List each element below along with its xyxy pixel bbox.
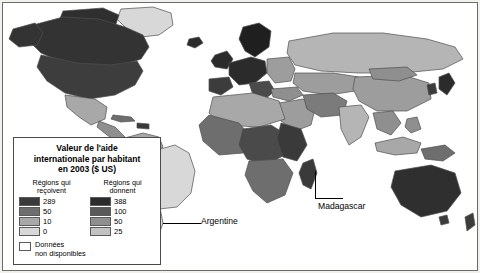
country-mexico (65, 95, 107, 125)
legend-swatch-row: 100 (90, 207, 155, 216)
legend-swatch-row: 388 (90, 197, 155, 206)
legend-swatch-row: 289 (19, 197, 84, 206)
legend-swatch (90, 197, 111, 206)
country-australia (391, 165, 461, 217)
legend-swatch-row: 50 (19, 207, 84, 216)
legend-swatch (19, 197, 40, 206)
country-cuba (111, 115, 135, 122)
legend-swatch-row: 50 (90, 217, 155, 226)
country-russia (287, 33, 463, 73)
legend-giving-header: Régions qui donnent (90, 179, 155, 196)
legend-swatch-label: 10 (43, 217, 51, 226)
legend-giving-header-line-2: donnent (90, 187, 155, 195)
legend-no-data-label: Données non disponibles (35, 241, 86, 258)
legend-swatch (19, 227, 40, 236)
legend-swatch-label: 50 (43, 207, 51, 216)
map-frame: Argentine Madagascar Valeur de l'aide in… (2, 2, 478, 271)
country-scandinavia (239, 23, 271, 57)
map-screenshot: Argentine Madagascar Valeur de l'aide in… (0, 0, 480, 273)
legend-swatch-label: 0 (43, 227, 47, 236)
legend-swatch (19, 217, 40, 226)
country-new-zealand (465, 213, 475, 231)
legend-title-line-2: internationale par habitant (19, 154, 155, 165)
country-central-asia (293, 73, 359, 95)
legend-swatch-label: 100 (114, 207, 127, 216)
country-southeast-asia (373, 111, 401, 135)
legend-swatch-label: 289 (43, 197, 56, 206)
legend-swatch-label: 25 (114, 227, 122, 236)
legend-swatch-row: 0 (19, 227, 84, 236)
legend-swatch (90, 227, 111, 236)
country-korea (427, 83, 437, 95)
legend-title-line-3: en 2003 ($ US) (19, 164, 155, 175)
legend-receiving-header-line-2: reçoivent (19, 187, 84, 195)
country-iceland (187, 37, 203, 48)
country-iberia (209, 77, 233, 95)
legend-columns: Régions qui reçoivent 289 50 10 (19, 179, 155, 238)
legend-swatch (90, 217, 111, 226)
legend-swatch (19, 207, 40, 216)
country-southern-africa (245, 159, 293, 203)
legend-no-data: Données non disponibles (19, 241, 155, 258)
madagascar-leader-line-2 (315, 198, 343, 199)
legend-column-receiving: Régions qui reçoivent 289 50 10 (19, 179, 84, 238)
country-turkey (271, 87, 303, 101)
legend-title: Valeur de l'aide internationale par habi… (19, 143, 155, 175)
legend-receiving-header: Régions qui reçoivent (19, 179, 84, 196)
argentine-leader-line (163, 223, 201, 224)
legend-swatch-label: 50 (114, 217, 122, 226)
country-eastern-europe (267, 57, 295, 83)
country-philippines (405, 117, 421, 133)
country-japan (439, 73, 455, 95)
madagascar-leader-line (315, 171, 316, 199)
country-india (339, 105, 369, 145)
map-legend: Valeur de l'aide internationale par habi… (13, 137, 161, 265)
legend-title-line-1: Valeur de l'aide (19, 143, 155, 154)
legend-no-data-swatch (19, 242, 31, 251)
country-tasmania (439, 215, 449, 225)
country-hispaniola (137, 123, 149, 129)
legend-swatch-row: 10 (19, 217, 84, 226)
country-western-europe (229, 57, 267, 85)
country-alaska (9, 23, 43, 47)
label-argentine: Argentine (201, 216, 238, 226)
legend-column-giving: Régions qui donnent 388 100 50 (90, 179, 155, 238)
legend-swatch-row: 25 (90, 227, 155, 236)
country-new-guinea (421, 145, 455, 161)
label-madagascar: Madagascar (318, 201, 365, 211)
legend-swatch-label: 388 (114, 197, 127, 206)
country-indonesia (375, 137, 421, 155)
legend-no-data-line-2: non disponibles (35, 250, 86, 259)
legend-swatch (90, 207, 111, 216)
